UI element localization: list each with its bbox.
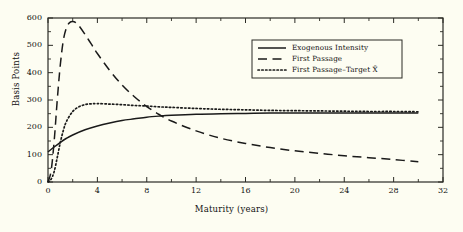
x-tick-label: 20 (280, 186, 310, 195)
y-tick-label: 500 (12, 40, 42, 49)
y-axis-title: Basis Points (11, 37, 21, 121)
y-tick-label: 100 (12, 150, 42, 159)
x-tick-label: 16 (231, 186, 261, 195)
x-tick-label: 28 (379, 186, 409, 195)
x-tick-label: 12 (181, 186, 211, 195)
x-tick-label: 0 (33, 186, 63, 195)
x-tick-label: 8 (132, 186, 162, 195)
y-tick-label: 200 (12, 122, 42, 131)
y-tick-label: 0 (12, 177, 42, 186)
legend-item-label: First Passage (292, 54, 342, 63)
legend-item-label: Exogenous Intensity (292, 43, 368, 52)
chart-canvas (0, 0, 463, 232)
y-tick-label: 600 (12, 13, 42, 22)
x-tick-label: 32 (428, 186, 458, 195)
y-tick-label: 400 (12, 68, 42, 77)
x-tick-label: 24 (329, 186, 359, 195)
y-tick-label: 300 (12, 95, 42, 104)
legend-item-label: First Passage–Target X̄ (292, 65, 378, 74)
x-tick-label: 4 (82, 186, 112, 195)
x-axis-title: Maturity (years) (0, 204, 463, 214)
chart-figure: Basis Points Maturity (years) 0100200300… (0, 0, 463, 232)
